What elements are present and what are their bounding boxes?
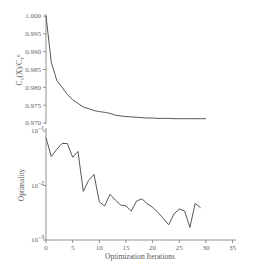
y-tick-label: 10 — [31, 182, 39, 190]
x-axis-title: Optimization Iterations — [105, 252, 175, 261]
y-tick-label: 0.990 — [25, 48, 41, 56]
chart-figure: 1.0000.9950.9900.9850.9800.9750.970 CT(X… — [0, 0, 260, 269]
x-tick-label: 30 — [202, 244, 210, 252]
x-tick-label: 0 — [44, 244, 48, 252]
x-tick-label: 20 — [149, 244, 157, 252]
y-tick-exponent: -2 — [39, 179, 45, 187]
y-tick-label: 10 — [31, 236, 39, 244]
x-ticks: 05101520253035 — [44, 240, 236, 252]
x-tick-label: 25 — [176, 244, 184, 252]
x-tick-label: 35 — [229, 244, 237, 252]
x-tick-label: 5 — [71, 244, 75, 252]
x-tick-label: 15 — [122, 244, 130, 252]
y-tick-label: 0.995 — [25, 30, 41, 38]
top-y-axis-title: CT(X)/CT0 — [15, 54, 25, 86]
y-tick-exponent: -1 — [39, 124, 45, 132]
y-tick-label: 0.985 — [25, 66, 41, 74]
y-tick-label: 0.980 — [25, 84, 41, 92]
top-y-ticks: 1.0000.9950.9900.9850.9800.9750.970 — [25, 12, 46, 127]
optimality-line — [46, 138, 201, 228]
bottom-y-ticks: 10-110-210-3 — [31, 124, 46, 244]
normalized-cost-line — [46, 16, 206, 119]
y-tick-label: 1.000 — [25, 12, 41, 20]
y-tick-label: 10 — [31, 127, 39, 135]
y-tick-label: 0.975 — [25, 102, 41, 110]
y-tick-exponent: -3 — [39, 233, 45, 241]
x-tick-label: 10 — [96, 244, 104, 252]
bottom-y-axis-title: Optimality — [17, 169, 26, 202]
